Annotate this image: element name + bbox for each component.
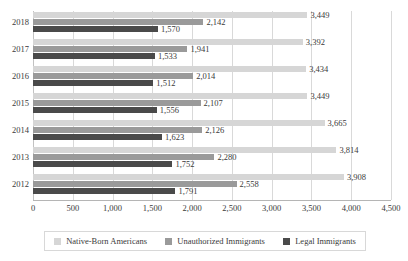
legend-label: Unauthorized Immigrants: [177, 237, 265, 246]
legend-label: Legal Immigrants: [295, 237, 356, 246]
bar-value-label: 2,014: [196, 72, 215, 81]
bar-value-label: 3,434: [309, 65, 328, 74]
bar: [33, 12, 307, 18]
bar-value-label: 2,142: [206, 18, 225, 27]
x-tick-label: 2,000: [183, 204, 202, 213]
bar-item: 3,449: [33, 12, 330, 18]
bar-group: 3,4492,1071,556: [33, 93, 391, 120]
gridline: [391, 11, 392, 200]
bar-item: 3,449: [33, 93, 330, 99]
bar-group: 3,4342,0141,512: [33, 66, 391, 93]
category-label: 2013: [0, 153, 29, 162]
legend-swatch-icon: [165, 238, 172, 245]
bar: [33, 134, 162, 140]
bar-value-label: 1,533: [158, 52, 177, 61]
bar-value-label: 1,752: [175, 160, 194, 169]
bar-value-label: 1,941: [190, 45, 209, 54]
bar-value-label: 1,570: [161, 25, 180, 34]
bar-value-label: 3,392: [306, 38, 325, 47]
category-label: 2017: [0, 45, 29, 54]
legend-label: Native-Born Americans: [66, 237, 147, 246]
bar: [33, 107, 157, 113]
category-label: 2012: [0, 180, 29, 189]
x-tick-label: 1,500: [143, 204, 162, 213]
category-label: 2014: [0, 126, 29, 135]
bar-item: 3,814: [33, 147, 359, 153]
bar-value-label: 3,665: [328, 119, 347, 128]
x-axis-line: [33, 200, 391, 201]
bar: [33, 39, 303, 45]
bar-item: 1,941: [33, 46, 210, 52]
bar-value-label: 2,126: [205, 126, 224, 135]
bar-item: 2,014: [33, 73, 215, 79]
bar-value-label: 3,449: [310, 92, 329, 101]
bar-value-label: 2,558: [240, 180, 259, 189]
x-tick-label: 500: [66, 204, 79, 213]
bar-value-label: 3,908: [347, 173, 366, 182]
bar: [33, 188, 175, 194]
bar-value-label: 2,107: [204, 99, 223, 108]
bar-value-label: 3,814: [339, 146, 358, 155]
bar-item: 2,280: [33, 154, 237, 160]
x-tick-label: 2,500: [222, 204, 241, 213]
category-label: 2018: [0, 18, 29, 27]
bar-value-label: 1,512: [156, 79, 175, 88]
bar-item: 2,126: [33, 127, 224, 133]
bar: [33, 181, 237, 187]
bar-value-label: 2,280: [217, 153, 236, 162]
bar-value-label: 1,556: [160, 106, 179, 115]
bar-item: 2,142: [33, 19, 226, 25]
bar-value-label: 1,791: [178, 187, 197, 196]
bar-chart: 3,4492,1421,5703,3921,9411,5333,4342,014…: [0, 0, 408, 261]
bar: [33, 174, 344, 180]
bar-item: 1,752: [33, 161, 195, 167]
x-tick-label: 3,500: [302, 204, 321, 213]
bar-group: 3,9082,5581,791: [33, 174, 391, 201]
bar-item: 1,556: [33, 107, 179, 113]
x-tick-label: 1,000: [103, 204, 122, 213]
bar-value-label: 3,449: [310, 11, 329, 20]
legend-entry[interactable]: Native-Born Americans: [54, 237, 147, 246]
bar-value-label: 1,623: [165, 133, 184, 142]
bar-item: 3,392: [33, 39, 325, 45]
bar: [33, 26, 158, 32]
bar-item: 1,533: [33, 53, 177, 59]
bar: [33, 66, 306, 72]
bar-group: 3,3921,9411,533: [33, 39, 391, 66]
bar: [33, 147, 336, 153]
bar: [33, 161, 172, 167]
bar: [33, 93, 307, 99]
x-tick-label: 3,000: [262, 204, 281, 213]
bar-item: 3,908: [33, 174, 366, 180]
chart-legend: Native-Born AmericansUnauthorized Immigr…: [44, 231, 366, 251]
bar-item: 1,791: [33, 188, 198, 194]
bar-item: 1,512: [33, 80, 175, 86]
bar-group: 3,6652,1261,623: [33, 120, 391, 147]
legend-entry[interactable]: Unauthorized Immigrants: [165, 237, 265, 246]
bar: [33, 120, 325, 126]
bar-item: 2,107: [33, 100, 223, 106]
x-tick-label: 0: [31, 204, 35, 213]
bar-item: 3,434: [33, 66, 328, 72]
legend-swatch-icon: [283, 238, 290, 245]
bar-item: 1,570: [33, 26, 180, 32]
category-label: 2016: [0, 72, 29, 81]
bar: [33, 80, 153, 86]
legend-entry[interactable]: Legal Immigrants: [283, 237, 356, 246]
bar-item: 3,665: [33, 120, 347, 126]
plot-area: 3,4492,1421,5703,3921,9411,5333,4342,014…: [33, 11, 391, 200]
bar-group: 3,4492,1421,570: [33, 12, 391, 39]
bar-group: 3,8142,2801,752: [33, 147, 391, 174]
bar-item: 2,558: [33, 181, 259, 187]
bar-item: 1,623: [33, 134, 184, 140]
x-tick-label: 4,500: [381, 204, 400, 213]
bar: [33, 53, 155, 59]
legend-swatch-icon: [54, 238, 61, 245]
category-label: 2015: [0, 99, 29, 108]
x-tick-label: 4,000: [342, 204, 361, 213]
